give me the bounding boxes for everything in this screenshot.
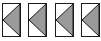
left-arrow-button-4[interactable]: [81, 3, 100, 37]
left-arrow-button-3[interactable]: [55, 3, 74, 37]
triangle-left-icon: [29, 4, 46, 36]
triangle-left-icon: [82, 4, 99, 36]
left-arrow-button-1[interactable]: [2, 3, 21, 37]
triangle-left-icon: [3, 4, 20, 36]
left-arrow-button-2[interactable]: [28, 3, 47, 37]
triangle-left-icon: [56, 4, 73, 36]
